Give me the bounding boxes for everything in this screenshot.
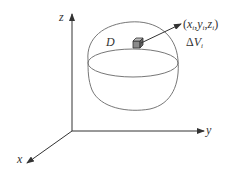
region-label: D [105, 35, 115, 49]
region-outline [88, 22, 178, 110]
point-label: (xi,yi,zi) [183, 17, 218, 32]
y-axis-label: y [205, 123, 212, 137]
z-axis-label: z [58, 10, 64, 24]
triple-integral-diagram: z y x D (xi,yi,zi) ΔVi [0, 0, 247, 182]
x-axis-label: x [16, 152, 23, 166]
pointer-arrow [141, 24, 181, 43]
equator-ellipse [88, 49, 178, 77]
x-axis [27, 131, 72, 163]
coordinate-axes [27, 14, 204, 163]
volume-label: ΔVi [186, 35, 203, 50]
region-d [88, 22, 178, 110]
